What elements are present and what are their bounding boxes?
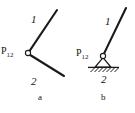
panel-a-link-2-label: 2 (31, 76, 37, 87)
panel-b-ground-hatching-icon (91, 68, 119, 72)
panel-b-link-2-label: 2 (101, 74, 107, 85)
panel-a-joint-label: P12 (1, 46, 14, 56)
diagram-canvas (0, 0, 135, 113)
panel-b-caption: b (101, 93, 106, 102)
panel-b-link-1-label: 1 (105, 16, 111, 27)
panel-b-pin-joint-icon (100, 53, 105, 58)
panel-a-pin-joint-icon (25, 50, 30, 55)
linkage-figure: 1 2 P12 a 1 2 P12 b (0, 0, 135, 113)
panel-a-link-2-line (30, 55, 64, 76)
panel-a-joint-label-subscript: 12 (7, 51, 14, 59)
panel-a-caption: a (38, 93, 42, 102)
panel-b-joint-label: P12 (76, 48, 89, 58)
panel-a-link-1-label: 1 (31, 14, 37, 25)
panel-b-joint-label-subscript: 12 (82, 53, 89, 61)
